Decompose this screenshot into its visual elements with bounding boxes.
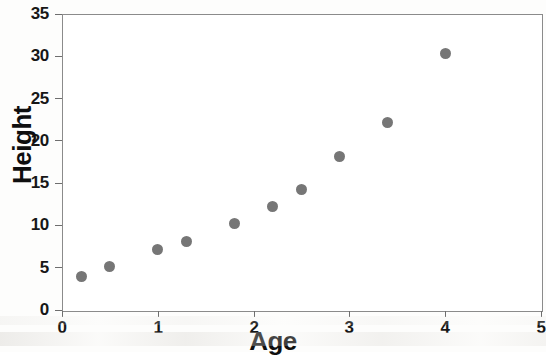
y-tick-mark	[55, 140, 62, 141]
y-tick-label: 10	[31, 216, 49, 233]
y-tick-mark	[55, 310, 62, 311]
x-tick-mark	[445, 311, 446, 317]
y-tick-mark	[55, 183, 62, 184]
x-tick-mark	[62, 311, 63, 317]
x-tick-mark	[254, 311, 255, 317]
y-tick-label: 5	[40, 259, 49, 276]
x-tick-mark	[541, 311, 542, 317]
data-point-marker	[382, 117, 393, 128]
data-point-marker	[440, 48, 451, 59]
x-tick-mark	[158, 311, 159, 317]
x-axis-title: Age	[0, 327, 546, 355]
y-tick-mark	[55, 225, 62, 226]
plot-area	[62, 14, 543, 312]
y-tick-label: 30	[31, 47, 49, 64]
y-tick-label: 0	[40, 301, 49, 318]
data-point-marker	[76, 271, 87, 282]
data-point-marker	[181, 236, 192, 247]
x-tick-mark	[349, 311, 350, 317]
data-point-marker	[334, 151, 345, 162]
y-tick-mark	[55, 267, 62, 268]
cut-off-title: Height vs Age	[96, 0, 396, 7]
y-tick-mark	[55, 56, 62, 57]
y-tick-mark	[55, 14, 62, 15]
y-axis-title: Height	[8, 75, 36, 215]
y-tick-mark	[55, 98, 62, 99]
data-point-marker	[296, 184, 307, 195]
scan-artifact-upper	[0, 316, 546, 325]
y-tick-label: 35	[31, 5, 49, 22]
